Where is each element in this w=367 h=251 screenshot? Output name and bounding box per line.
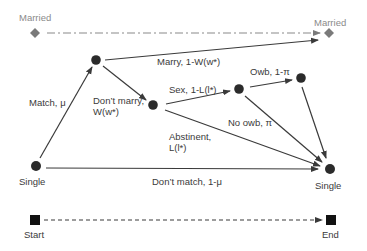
decision-tree-diagram: Married Married Single Single Start End …	[0, 0, 367, 251]
dont-marry-edge-label: Don’t marry, W(w*)	[93, 95, 144, 117]
start-square-icon	[30, 215, 40, 225]
edge-no-owb	[245, 96, 322, 162]
married-left-diamond-icon	[30, 28, 40, 38]
abstinent-edge-label-line2: L(l*)	[169, 142, 211, 153]
node-sex	[234, 84, 244, 94]
no-owb-edge-label: No owb, π	[228, 117, 272, 128]
node-single-right	[325, 164, 335, 174]
edge-dont-match	[46, 168, 318, 169]
end-square-icon	[326, 215, 336, 225]
start-label: Start	[24, 229, 44, 240]
node-matched	[91, 55, 101, 65]
marry-edge-label: Marry, 1-W(w*)	[157, 56, 220, 67]
single-left-label: Single	[19, 176, 45, 187]
edge-owb	[250, 80, 292, 87]
abstinent-edge-label-line1: Abstinent,	[169, 131, 211, 142]
single-right-label: Single	[315, 180, 341, 191]
married-left-label: Married	[19, 12, 51, 23]
node-dont-marry	[148, 100, 158, 110]
match-edge-label: Match, μ	[29, 97, 66, 108]
dont-match-edge-label: Don’t match, 1-μ	[152, 176, 222, 187]
abstinent-edge-label: Abstinent, L(l*)	[169, 131, 211, 153]
married-right-diamond-icon	[324, 28, 334, 38]
edge-match	[40, 67, 92, 158]
owb-edge-label: Owb, 1-π	[250, 66, 290, 77]
sex-edge-label: Sex, 1-L(l*)	[169, 84, 217, 95]
dont-marry-edge-label-line1: Don’t marry,	[93, 95, 144, 106]
dont-marry-edge-label-line2: W(w*)	[93, 106, 144, 117]
married-right-label: Married	[314, 17, 346, 28]
end-label: End	[322, 229, 339, 240]
diagram-canvas	[0, 0, 367, 251]
node-owb	[296, 73, 306, 83]
node-single-left	[31, 161, 41, 171]
